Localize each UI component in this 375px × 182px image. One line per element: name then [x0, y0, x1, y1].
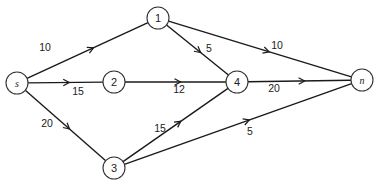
- edge-capacity-label: 5: [247, 125, 253, 137]
- node-label: 2: [111, 76, 117, 88]
- node-label: 3: [111, 162, 117, 174]
- edge-capacity-label: 20: [41, 117, 53, 129]
- node-3: 3: [103, 157, 125, 179]
- edge-3-to-4: [123, 88, 228, 161]
- node-label: n: [360, 75, 365, 86]
- node-1: 1: [147, 7, 169, 29]
- edge-1-to-4: [167, 25, 229, 75]
- edge-capacity-label: 15: [154, 122, 166, 134]
- edge-s-to-3: [25, 90, 105, 161]
- nodes-layer: s1234n: [6, 7, 373, 179]
- edge-line: [248, 80, 351, 82]
- edge-s-to-2: [28, 79, 103, 85]
- network-flow-diagram: s1234n 1015205101220155: [0, 0, 375, 182]
- node-s: s: [6, 72, 28, 94]
- node-label: s: [15, 78, 19, 89]
- node-2: 2: [103, 71, 125, 93]
- edge-capacity-label: 20: [268, 82, 280, 94]
- edge-line: [25, 90, 105, 161]
- edge-4-to-n: [248, 78, 351, 84]
- edge-line: [28, 82, 103, 83]
- edge-capacity-label: 12: [173, 83, 185, 95]
- node-label: 4: [234, 76, 240, 88]
- edge-capacity-label: 10: [39, 41, 51, 53]
- node-4: 4: [226, 71, 248, 93]
- edge-capacity-label: 15: [72, 85, 84, 97]
- edge-capacity-label: 10: [271, 39, 283, 51]
- node-n: n: [351, 69, 373, 91]
- node-label: 1: [155, 12, 161, 24]
- edge-line: [123, 88, 228, 161]
- edge-line: [167, 25, 229, 75]
- edge-capacity-label: 5: [206, 42, 212, 54]
